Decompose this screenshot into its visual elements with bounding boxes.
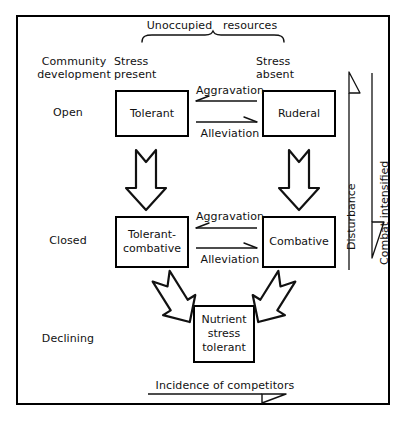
node-nutrient-stress-tolerant[interactable]: Nutrient stress tolerant — [193, 305, 255, 363]
community-development-header: Community development — [24, 55, 124, 81]
node-tolerant-combative[interactable]: Tolerant- combative — [115, 216, 189, 268]
node-combative-label: Combative — [269, 235, 329, 249]
row-label-open: Open — [24, 106, 112, 119]
row-label-declining: Declining — [24, 332, 112, 345]
transition-closed-alleviation-label: Alleviation — [186, 253, 274, 266]
axis-combat-intensified-label: Combat intensified — [378, 161, 391, 265]
row-label-closed: Closed — [24, 234, 112, 247]
top-axis-label: Unoccupied resources — [122, 19, 302, 32]
node-nutrient-stress-tolerant-label: Nutrient stress tolerant — [201, 313, 246, 355]
transition-open-aggravation-label: Aggravation — [186, 84, 274, 97]
node-tolerant-label: Tolerant — [130, 107, 174, 121]
node-tolerant-combative-label: Tolerant- combative — [123, 228, 181, 256]
node-tolerant[interactable]: Tolerant — [115, 90, 189, 137]
bottom-axis-label: Incidence of competitors — [145, 379, 305, 392]
transition-closed-aggravation-label: Aggravation — [186, 210, 274, 223]
column-header-stress-absent: Stress absent — [256, 55, 336, 81]
column-header-stress-present: Stress present — [114, 55, 194, 81]
axis-disturbance-label: Disturbance — [345, 183, 358, 250]
node-ruderal-label: Ruderal — [278, 107, 320, 121]
transition-open-alleviation-label: Alleviation — [186, 127, 274, 140]
diagram-root: Unoccupied resources Community developme… — [0, 0, 410, 428]
